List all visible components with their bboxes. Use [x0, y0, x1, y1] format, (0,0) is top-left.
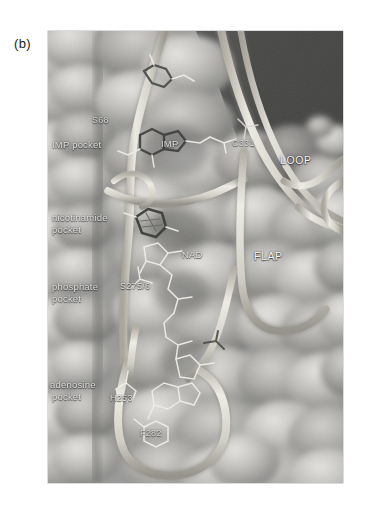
- molecular-surface-render: [48, 31, 343, 483]
- figure-panel: (b): [0, 0, 365, 508]
- molecular-render-image: IMP pocket nicotinamide pocket phosphate…: [48, 31, 343, 483]
- panel-label: (b): [14, 36, 31, 51]
